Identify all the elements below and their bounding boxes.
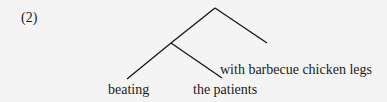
- leaf-beating: beating: [108, 83, 149, 97]
- leaf-the-patients: the patients: [193, 83, 257, 97]
- branch-inner-right: [171, 43, 222, 78]
- branch-root-right: [215, 8, 267, 43]
- leaf-with-barbecue-chicken-legs: with barbecue chicken legs: [220, 63, 372, 77]
- branch-root-left: [171, 8, 215, 43]
- branch-inner-left: [127, 43, 171, 79]
